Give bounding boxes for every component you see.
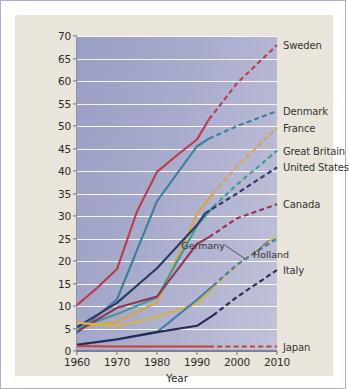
- x-tick-label: 1980: [144, 356, 170, 368]
- series-line-sweden-projected: [209, 45, 277, 119]
- series-label-denmark: Denmark: [283, 106, 328, 117]
- y-tick-label: 15: [58, 278, 71, 290]
- series-line-france-observed: [77, 194, 213, 328]
- series-line-france-projected: [213, 128, 277, 194]
- y-tick-label: 10: [58, 300, 71, 312]
- y-tick-label: 45: [58, 143, 71, 155]
- series-line-sweden-observed: [77, 119, 209, 305]
- y-tick-label: 65: [58, 53, 71, 65]
- y-tick-label: 40: [58, 165, 71, 177]
- y-tick-label: 60: [58, 75, 71, 87]
- x-tick-label: 2010: [264, 356, 290, 368]
- x-tick-mark: [196, 351, 197, 355]
- x-tick-mark: [116, 351, 117, 355]
- series-label-france: France: [283, 122, 315, 133]
- series-line-great-britain-projected: [213, 151, 277, 207]
- x-tick-mark: [76, 351, 77, 355]
- annotation-holland: Holland: [253, 249, 289, 260]
- series-line-denmark-projected: [209, 111, 277, 138]
- y-tick-label: 70: [58, 30, 71, 42]
- y-tick-label: 30: [58, 210, 71, 222]
- plot-area: 0510152025303540455055606570 19601970198…: [77, 36, 277, 351]
- y-tick-label: 25: [58, 233, 71, 245]
- series-label-sweden: Sweden: [283, 40, 322, 51]
- series-label-great-britain: Great Britain: [283, 145, 345, 156]
- y-tick-label: 50: [58, 120, 71, 132]
- y-tick-label: 20: [58, 255, 71, 267]
- y-tick-label: 5: [65, 323, 71, 335]
- series-lines: [77, 36, 277, 351]
- chart-panel: Percentage of All Births 051015202530354…: [15, 15, 333, 376]
- figure-inner-border: Percentage of All Births 051015202530354…: [6, 6, 342, 385]
- x-tick-label: 2000: [224, 356, 250, 368]
- series-label-united-states: United States: [283, 162, 349, 173]
- series-line-canada-projected: [209, 204, 277, 237]
- series-label-japan: Japan: [283, 341, 310, 352]
- y-tick-label: 35: [58, 188, 71, 200]
- annotation-germany: Germany: [181, 240, 225, 251]
- series-label-italy: Italy: [283, 265, 304, 276]
- x-tick-label: 1960: [64, 356, 90, 368]
- x-tick-mark: [276, 351, 277, 355]
- x-tick-mark: [156, 351, 157, 355]
- x-axis-title: Year: [77, 372, 277, 384]
- x-tick-label: 1970: [104, 356, 130, 368]
- x-tick-mark: [236, 351, 237, 355]
- y-tick-label: 55: [58, 98, 71, 110]
- series-label-canada: Canada: [283, 199, 320, 210]
- x-tick-label: 1990: [184, 356, 210, 368]
